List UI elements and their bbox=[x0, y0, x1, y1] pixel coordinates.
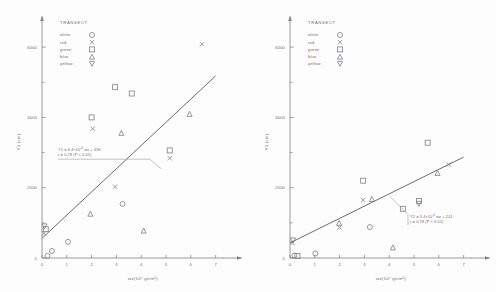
y-tick-label: 0 bbox=[283, 256, 286, 261]
data-point bbox=[400, 206, 405, 211]
x-marker-icon bbox=[90, 40, 94, 44]
triangle-down-marker-icon bbox=[90, 61, 95, 66]
data-point bbox=[313, 251, 318, 256]
x-tick-label: 0 bbox=[41, 262, 44, 267]
circle-marker-icon bbox=[338, 33, 343, 38]
legend-item-label-blue: blue bbox=[60, 54, 69, 59]
y-axis-title: Y2 (cm) bbox=[264, 133, 269, 150]
x-tick-label: 2 bbox=[90, 262, 93, 267]
x-axis bbox=[290, 256, 490, 260]
data-point bbox=[292, 253, 297, 258]
x-tick-label: 4 bbox=[388, 262, 391, 267]
data-point bbox=[187, 111, 192, 116]
data-point bbox=[447, 162, 451, 166]
data-point bbox=[141, 228, 146, 233]
x-tick-label: 5 bbox=[165, 262, 168, 267]
regression-annotation: Y1 = 6.4×10-4 wz + 494r = 0.78 (P < 0.01… bbox=[58, 146, 161, 169]
legend-item-label-green: green bbox=[308, 47, 320, 52]
y-axis-title: Y1 (cm) bbox=[16, 133, 21, 150]
x-axis-title: wz(10⁴ g/cm³) bbox=[128, 276, 158, 281]
x-tick-label: 0 bbox=[289, 262, 292, 267]
legend-item-label-red: red bbox=[308, 40, 315, 45]
series-blue bbox=[337, 170, 440, 250]
legend-title: TRANSECT bbox=[308, 20, 336, 25]
x-marker-icon bbox=[338, 40, 342, 44]
data-point bbox=[200, 42, 204, 46]
figure-scatter-plots: 012345670200040006000wz(10⁴ g/cm³)Y1 (cm… bbox=[0, 0, 496, 292]
regression-correlation: r = 0.78 (P < 0.01) bbox=[58, 152, 92, 157]
y-tick-label: 2000 bbox=[275, 185, 285, 190]
data-point bbox=[390, 245, 395, 250]
data-point bbox=[119, 130, 124, 135]
data-point bbox=[91, 127, 95, 131]
legend-item-label-blue: blue bbox=[308, 54, 317, 59]
y-tick-label: 0 bbox=[35, 256, 38, 261]
y-tick-label: 4000 bbox=[275, 115, 285, 120]
x-tick-label: 4 bbox=[140, 262, 143, 267]
legend-item-label-green: green bbox=[60, 47, 72, 52]
legend-item-label-yellow: yellow bbox=[60, 61, 73, 66]
regression-equation: Y1 = 6.4×10-4 wz + 494 bbox=[58, 146, 101, 152]
chart-panel-left: 012345670200040006000wz(10⁴ g/cm³)Y1 (cm… bbox=[0, 0, 248, 292]
chart-panel-right: 012345670200040006000wz(10⁴ g/cm³)Y2 (cm… bbox=[248, 0, 496, 292]
series-yellow bbox=[290, 201, 421, 243]
y-tick-label: 2000 bbox=[27, 185, 37, 190]
triangle-up-marker-icon bbox=[338, 54, 343, 59]
x-tick-label: 1 bbox=[66, 262, 69, 267]
x-tick-label: 6 bbox=[438, 262, 441, 267]
y-axis bbox=[40, 16, 44, 258]
x-axis bbox=[42, 256, 242, 260]
data-point bbox=[167, 148, 172, 153]
data-point bbox=[168, 156, 172, 160]
x-tick-label: 2 bbox=[338, 262, 341, 267]
x-tick-label: 6 bbox=[190, 262, 193, 267]
y-tick-label: 6000 bbox=[27, 45, 37, 50]
x-axis-title: wz(10⁴ g/cm³) bbox=[376, 276, 406, 281]
data-point bbox=[425, 140, 430, 145]
data-point bbox=[88, 211, 93, 216]
legend: TRANSECTwhiteredgreenblueyellow bbox=[308, 20, 343, 66]
square-marker-icon bbox=[90, 47, 95, 52]
data-point bbox=[66, 239, 71, 244]
series-red bbox=[290, 162, 450, 245]
data-point bbox=[369, 196, 374, 201]
data-point bbox=[120, 201, 125, 206]
legend-title: TRANSECT bbox=[60, 20, 88, 25]
x-tick-label: 3 bbox=[115, 262, 118, 267]
data-point bbox=[361, 198, 365, 202]
series-green bbox=[43, 85, 172, 232]
series-blue bbox=[88, 111, 192, 233]
data-point bbox=[337, 220, 342, 225]
y-tick-label: 6000 bbox=[275, 45, 285, 50]
square-marker-icon bbox=[338, 47, 343, 52]
data-point bbox=[113, 85, 118, 90]
triangle-down-marker-icon bbox=[338, 61, 343, 66]
data-point bbox=[129, 91, 134, 96]
regression-correlation: r = 0.78 (P < 0.01) bbox=[410, 219, 444, 224]
x-tick-label: 7 bbox=[214, 262, 217, 267]
x-tick-label: 7 bbox=[462, 262, 465, 267]
data-point bbox=[89, 115, 94, 120]
y-tick-label: 4000 bbox=[27, 115, 37, 120]
legend-item-label-white: white bbox=[60, 32, 71, 37]
x-tick-label: 5 bbox=[413, 262, 416, 267]
data-point bbox=[367, 225, 372, 230]
x-tick-label: 3 bbox=[363, 262, 366, 267]
y-axis bbox=[288, 16, 292, 258]
regression-equation: Y2 = 5.4×10-4 wz + 241 bbox=[410, 213, 453, 219]
data-point bbox=[361, 178, 366, 183]
legend: TRANSECTwhiteredgreenblueyellow bbox=[60, 20, 95, 66]
x-tick-label: 1 bbox=[314, 262, 317, 267]
data-point bbox=[113, 185, 117, 189]
legend-item-label-white: white bbox=[308, 32, 319, 37]
legend-item-label-yellow: yellow bbox=[308, 61, 321, 66]
series-white bbox=[292, 225, 372, 258]
data-point bbox=[49, 248, 54, 253]
data-point bbox=[337, 225, 341, 229]
series-white bbox=[45, 201, 125, 258]
triangle-up-marker-icon bbox=[90, 54, 95, 59]
circle-marker-icon bbox=[90, 33, 95, 38]
legend-item-label-red: red bbox=[60, 40, 67, 45]
